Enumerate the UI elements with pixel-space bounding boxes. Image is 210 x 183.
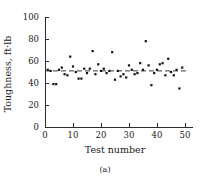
data-point <box>100 70 102 72</box>
data-point <box>170 71 172 73</box>
data-point <box>52 83 54 85</box>
figure-container: 020406080100 01020304050 Toughness, ft·l… <box>0 0 210 183</box>
x-tick-label: 20 <box>96 130 107 140</box>
y-tick-label: 60 <box>28 56 39 66</box>
x-tick-label: 10 <box>68 130 79 140</box>
data-point <box>150 84 152 86</box>
data-point <box>72 65 74 67</box>
data-point <box>125 76 127 78</box>
data-point <box>136 72 138 74</box>
data-point <box>159 63 161 65</box>
data-point <box>47 69 49 71</box>
data-point <box>142 69 144 71</box>
data-point <box>106 72 108 74</box>
data-point <box>58 69 60 71</box>
y-tick-label: 80 <box>28 34 39 44</box>
data-point <box>64 73 66 75</box>
x-tick-label: 40 <box>152 130 163 140</box>
data-point <box>97 63 99 65</box>
data-point <box>139 62 141 64</box>
data-point <box>108 70 110 72</box>
data-point <box>120 75 122 77</box>
data-point <box>134 73 136 75</box>
data-point <box>173 74 175 76</box>
data-point <box>86 72 88 74</box>
data-point <box>78 78 80 80</box>
data-point <box>176 69 178 71</box>
data-point <box>167 58 169 60</box>
data-point <box>111 51 113 53</box>
scatter-plot: 020406080100 01020304050 Toughness, ft·l… <box>0 0 210 183</box>
data-point <box>128 64 130 66</box>
data-point <box>153 72 155 74</box>
data-point <box>69 56 71 58</box>
data-points <box>47 40 184 90</box>
data-point <box>83 68 85 70</box>
y-axis-tick-labels: 020406080100 <box>23 12 39 132</box>
data-point <box>61 67 63 69</box>
figure-caption: (a) <box>99 165 110 174</box>
x-tick-label: 50 <box>180 130 191 140</box>
data-point <box>114 79 116 81</box>
data-point <box>103 68 105 70</box>
data-point <box>164 74 166 76</box>
data-point <box>75 71 77 73</box>
data-point <box>178 87 180 89</box>
y-tick-label: 20 <box>28 100 39 110</box>
y-tick-label: 40 <box>28 78 39 88</box>
data-point <box>122 73 124 75</box>
x-tick-label: 30 <box>124 130 135 140</box>
data-point <box>92 50 94 52</box>
data-point <box>148 64 150 66</box>
data-point <box>50 70 52 72</box>
data-point <box>181 67 183 69</box>
data-point <box>89 68 91 70</box>
data-point <box>117 70 119 72</box>
x-axis-title: Test number <box>85 144 146 155</box>
data-point <box>80 78 82 80</box>
y-tick-label: 100 <box>23 12 39 22</box>
data-point <box>66 74 68 76</box>
data-point <box>156 69 158 71</box>
y-tick-label: 0 <box>34 122 39 132</box>
data-point <box>131 69 133 71</box>
x-axis-ticks <box>45 123 185 127</box>
y-axis-title: Toughness, ft·lb <box>2 36 13 113</box>
x-axis-tick-labels: 01020304050 <box>42 130 190 140</box>
data-point <box>145 40 147 42</box>
data-point <box>55 83 57 85</box>
data-point <box>94 73 96 75</box>
y-axis-ticks <box>45 17 49 127</box>
x-tick-label: 0 <box>42 130 47 140</box>
data-point <box>162 62 164 64</box>
